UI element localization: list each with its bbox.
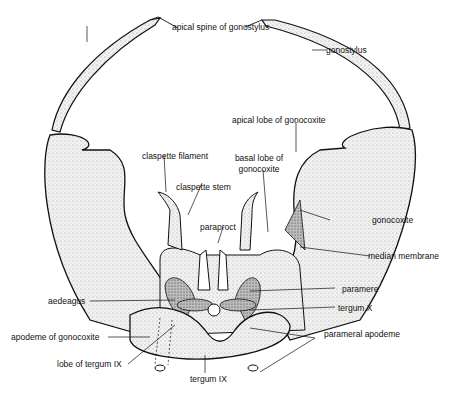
label-basal-lobe-line2: gonocoxite bbox=[224, 164, 294, 174]
label-tergum-ix: tergum IX bbox=[190, 374, 227, 384]
label-parameral-apodeme: parameral apodeme bbox=[324, 329, 400, 339]
label-paraproct: paraproct bbox=[200, 222, 236, 232]
label-aedeagus: aedeagus bbox=[48, 296, 85, 306]
label-claspette-filament: claspette filament bbox=[142, 151, 208, 161]
label-gonocoxite: gonocoxite bbox=[372, 215, 413, 225]
label-basal-lobe-line1: basal lobe of bbox=[224, 153, 294, 163]
label-claspette-stem: claspette stem bbox=[176, 182, 231, 192]
genitalia-diagram: apical spine of gonostylus gonostylus ap… bbox=[0, 0, 456, 394]
right-gonostylus bbox=[245, 20, 410, 130]
label-gonostylus: gonostylus bbox=[326, 45, 367, 55]
label-paramere: paramere bbox=[342, 284, 378, 294]
left-claspette bbox=[158, 192, 182, 250]
label-tergum-x: tergum X bbox=[338, 303, 373, 313]
left-gonostylus bbox=[52, 17, 178, 132]
label-apodeme-of-gonocoxite: apodeme of gonocoxite bbox=[11, 332, 99, 342]
label-median-membrane: median membrane bbox=[368, 251, 439, 261]
right-claspette bbox=[240, 192, 258, 250]
label-lobe-of-tergum-ix: lobe of tergum IX bbox=[57, 359, 122, 369]
label-apical-lobe: apical lobe of gonocoxite bbox=[232, 115, 326, 125]
label-apical-spine: apical spine of gonostylus bbox=[172, 22, 269, 32]
